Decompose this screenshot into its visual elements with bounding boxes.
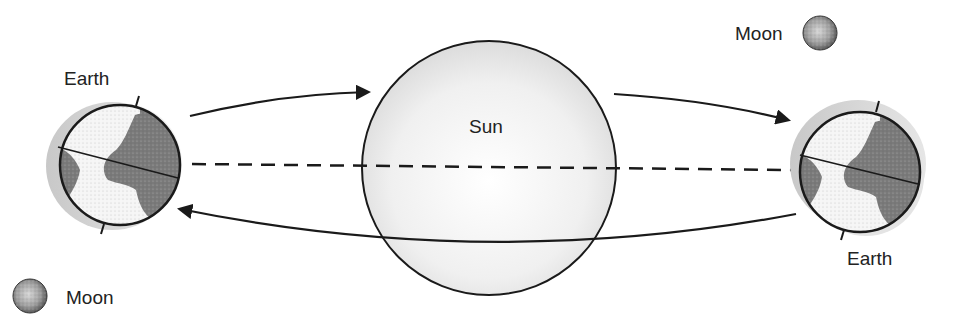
- moon-bottom-label: Moon: [66, 288, 114, 307]
- moon-top-label: Moon: [735, 24, 783, 43]
- earth-left-label: Earth: [64, 69, 109, 88]
- sun-label: Sun: [469, 117, 503, 136]
- axis-top-tick: [136, 96, 139, 106]
- earth-left: [46, 96, 186, 234]
- orbit-diagram: Earth Sun Moon Moon Earth: [0, 0, 974, 328]
- earth-right: [790, 100, 926, 240]
- earth-right-label: Earth: [847, 249, 892, 268]
- axis-bottom-tick: [841, 230, 844, 240]
- orbit-arrow-top-right: [614, 94, 788, 120]
- moon-bottom: [13, 279, 47, 313]
- orbit-arrow-top-left: [190, 92, 368, 116]
- moon-top: [803, 16, 837, 50]
- sun: [362, 41, 616, 295]
